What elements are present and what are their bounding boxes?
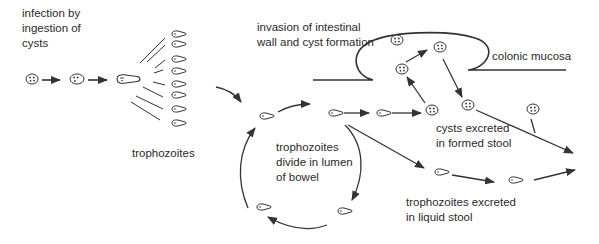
- colonic-mucosa-label: colonic mucosa: [492, 49, 571, 64]
- wall-invasion-cysts: [391, 35, 539, 115]
- liquid-stool-trophozoites: [435, 169, 523, 183]
- infection-label: infection by ingestion of cysts: [22, 6, 81, 51]
- trophozoite-icon: [117, 75, 140, 84]
- trophozoites-excreted-label: trophozoites excreted in liquid stool: [406, 195, 516, 225]
- amoeba-life-cycle-diagram: infection by ingestion of cysts trophozo…: [0, 0, 599, 244]
- cysts-excreted-label: cysts excreted in formed stool: [436, 121, 511, 151]
- lumen-division-label: trophozoites divide in lumen of bowel: [276, 140, 353, 185]
- released-trophozoites: [172, 31, 186, 126]
- trophozoites-label: trophozoites: [132, 146, 195, 161]
- invasion-label: invasion of intestinal wall and cyst for…: [257, 20, 374, 50]
- cyst-icon: [26, 74, 38, 84]
- cyst-icon: [70, 74, 84, 84]
- ingestion-sequence: [26, 74, 140, 84]
